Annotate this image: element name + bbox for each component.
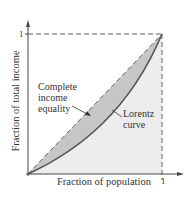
x-axis-label: Fraction of population (57, 176, 151, 187)
equality-annotation: Complete income equality (38, 81, 77, 114)
y-axis-label: Fraction of total income (10, 50, 21, 151)
equality-annotation-line2: income (38, 92, 77, 103)
y-tick-label: 1 (19, 29, 24, 39)
x-tick-label: 1 (161, 176, 166, 186)
lorentz-diagram: Fraction of total income 1 Fraction of p… (0, 0, 186, 198)
lorentz-annotation-line2: curve (123, 119, 154, 130)
equality-annotation-line1: Complete (38, 81, 77, 92)
lorentz-annotation: Lorentz curve (123, 108, 154, 130)
x-axis-arrow-icon (177, 172, 184, 176)
plot-area (0, 0, 186, 198)
lorentz-annotation-line1: Lorentz (123, 108, 154, 119)
y-axis-arrow-icon (26, 20, 30, 27)
equality-annotation-line3: equality (38, 103, 77, 114)
